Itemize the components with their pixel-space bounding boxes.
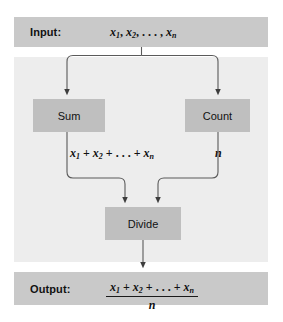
out-ellipsis: . . . bbox=[156, 280, 171, 294]
edge-sum-to-divide bbox=[67, 132, 125, 200]
edge-input-to-sum bbox=[67, 56, 142, 93]
output-numerator: x1 + x2 + . . . + xn bbox=[106, 280, 198, 297]
edge-count-to-divide bbox=[158, 132, 218, 200]
out-plus-1: + bbox=[120, 280, 133, 294]
output-fraction: x1 + x2 + . . . + xn n bbox=[106, 277, 198, 313]
out-term-2: x2 bbox=[133, 280, 143, 294]
output-label: Output: bbox=[30, 283, 70, 295]
edge-input-to-count bbox=[142, 56, 219, 93]
out-term-1: x1 bbox=[110, 280, 120, 294]
out-term-n: xn bbox=[184, 280, 194, 294]
output-band: Output: x1 + x2 + . . . + xn n bbox=[14, 272, 268, 305]
flowchart-diagram: Input: x1, x2, . . . , xn Sum Count Divi… bbox=[0, 0, 283, 322]
output-denominator: n bbox=[106, 297, 198, 313]
out-plus-2: + bbox=[143, 280, 156, 294]
out-plus-3: + bbox=[171, 280, 184, 294]
